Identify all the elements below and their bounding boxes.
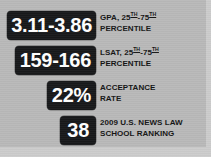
stat-label-lsat-pre: LSAT, 25 [100,48,133,57]
stat-label-acceptance-rate-line1: ACCEPTANCE [100,83,211,94]
label-cell-acceptance-rate: ACCEPTANCE RATE [100,81,211,104]
badge-cell-lsat: 159-166 [0,46,100,75]
stat-label-gpa-sup2: TH [149,11,156,17]
law-school-stats-infographic: 3.11-3.86 GPA, 25TH-75TH PERCENTILE 159-… [0,0,211,157]
badge-cell-gpa: 3.11-3.86 [0,11,100,40]
stats-list: 3.11-3.86 GPA, 25TH-75TH PERCENTILE 159-… [0,0,211,145]
label-cell-ranking: 2009 U.S. NEWS LAW SCHOOL RANKING [100,116,211,139]
label-cell-gpa: GPA, 25TH-75TH PERCENTILE [100,11,211,34]
stat-value-acceptance-rate: 22% [47,81,96,110]
bottom-edge-strip [0,147,211,157]
stat-label-ranking-line1: 2009 U.S. NEWS LAW [100,118,211,129]
stat-label-ranking-line2: SCHOOL RANKING [100,129,211,140]
stat-row-lsat: 159-166 LSAT, 25TH-75TH PERCENTILE [0,46,211,75]
stat-row-acceptance-rate: 22% ACCEPTANCE RATE [0,81,211,110]
stat-label-acceptance-rate-line2: RATE [100,94,211,105]
badge-cell-ranking: 38 [0,116,100,145]
label-cell-lsat: LSAT, 25TH-75TH PERCENTILE [100,46,211,69]
stat-value-ranking: 38 [60,116,96,145]
stat-row-gpa: 3.11-3.86 GPA, 25TH-75TH PERCENTILE [0,11,211,40]
stat-row-ranking: 38 2009 U.S. NEWS LAW SCHOOL RANKING [0,116,211,145]
badge-cell-acceptance-rate: 22% [0,81,100,110]
stat-label-gpa-pre: GPA, 25 [100,13,130,22]
stat-label-lsat-line2: PERCENTILE [100,59,211,70]
stat-label-lsat-mid: -75 [140,48,152,57]
stat-value-gpa: 3.11-3.86 [7,11,96,40]
stat-label-gpa-line2: PERCENTILE [100,24,211,35]
stat-label-lsat-line1: LSAT, 25TH-75TH [100,48,211,59]
stat-value-lsat: 159-166 [15,46,96,75]
stat-label-gpa-line1: GPA, 25TH-75TH [100,13,211,24]
stat-label-lsat-sup2: TH [152,46,159,52]
stat-label-gpa-mid: -75 [137,13,149,22]
